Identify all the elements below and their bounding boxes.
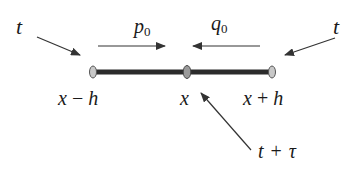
label-x: x	[179, 87, 189, 109]
label-x-minus-h: x−h	[57, 87, 98, 109]
label-t-left: t	[16, 14, 23, 39]
label-p0: p0	[132, 15, 151, 39]
rod-bar	[93, 70, 272, 75]
left-node	[90, 66, 97, 78]
middle-node	[183, 66, 191, 79]
label-t-right: t	[333, 14, 340, 39]
label-q0: q0	[211, 12, 228, 36]
arrow-t-left	[37, 37, 80, 55]
label-x-plus-h: x+h	[242, 87, 283, 109]
diagram-canvas: t t p0 q0 x−h x x+h t+τ	[0, 0, 361, 173]
label-t-plus-tau: t+τ	[258, 140, 297, 162]
arrow-t-right	[285, 38, 335, 55]
right-node	[269, 66, 276, 78]
